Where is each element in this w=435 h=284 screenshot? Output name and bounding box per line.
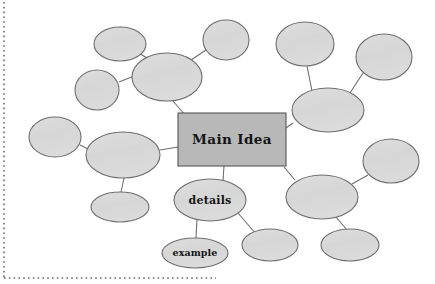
node-shape-ellipse [203,20,249,60]
node-branch-se-big[interactable] [286,175,358,219]
node-shapes: Main Ideadetailsexample [29,20,419,268]
node-branch-nw-big[interactable] [132,53,202,101]
node-shape-ellipse [29,117,81,157]
node-branch-w-left[interactable] [29,117,81,157]
node-branch-n-mid[interactable] [203,20,249,60]
concept-map-diagram: Main Ideadetailsexample [0,0,435,284]
node-branch-w-big[interactable] [86,132,160,178]
node-branch-ne-top[interactable] [276,22,334,66]
node-branch-s-mid[interactable] [242,229,298,261]
node-shape-ellipse [276,22,334,66]
node-example[interactable]: example [162,238,228,268]
connector-details-to-branch-s-mid [238,213,256,234]
node-shape-ellipse [94,27,146,61]
node-shape-ellipse [292,88,364,132]
connector-branch-w-big-to-main-idea [160,147,178,150]
connector-branch-w-big-to-branch-w-bottom [121,178,124,192]
connector-branch-ne-right-to-branch-ne-big [350,73,363,93]
connector-branch-se-big-to-branch-se-right [352,175,368,184]
node-shape-ellipse [286,175,358,219]
connector-main-idea-to-branch-se-big [284,167,295,180]
connector-branch-ne-top-to-branch-ne-big [307,66,312,91]
node-shape-ellipse [75,70,119,110]
node-branch-ne-right[interactable] [356,34,412,80]
node-branch-se-bottom[interactable] [321,229,379,261]
node-branch-nw-left[interactable] [75,70,119,110]
connector-branch-ne-big-to-main-idea [286,123,293,128]
node-label-example: example [173,247,218,258]
node-details[interactable]: details [174,179,246,221]
node-main-idea[interactable]: Main Idea [178,113,286,166]
node-branch-nw-top[interactable] [94,27,146,61]
connector-branch-n-mid-to-branch-nw-big [191,50,206,60]
node-shape-ellipse [242,229,298,261]
connector-main-idea-to-details [223,166,224,181]
node-shape-ellipse [363,139,419,183]
connector-branch-se-big-to-branch-se-bottom [336,217,347,230]
worksheet-canvas: Main Ideadetailsexample [0,0,435,284]
node-shape-ellipse [86,132,160,178]
node-label-details: details [189,194,232,207]
node-shape-ellipse [356,34,412,80]
node-label-main-idea: Main Idea [192,131,272,147]
node-branch-se-right[interactable] [363,139,419,183]
node-shape-ellipse [321,229,379,261]
connector-details-to-example [196,219,197,238]
node-branch-w-bottom[interactable] [91,192,149,222]
node-shape-ellipse [132,53,202,101]
node-shape-ellipse [91,192,149,222]
node-branch-ne-big[interactable] [292,88,364,132]
